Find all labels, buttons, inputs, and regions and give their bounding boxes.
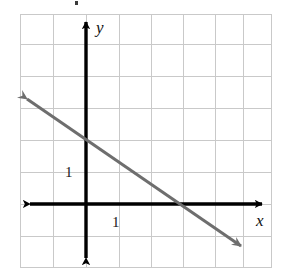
y-axis-label: y — [94, 18, 104, 37]
coordinate-plane-svg: y x 1 1 — [0, 0, 287, 274]
graph-figure: y x 1 1 — [0, 0, 287, 274]
top-artifact-mark — [75, 1, 78, 5]
x-unit-tick-label: 1 — [112, 214, 120, 230]
y-unit-tick-label: 1 — [65, 164, 73, 180]
x-axis-label: x — [255, 211, 264, 230]
